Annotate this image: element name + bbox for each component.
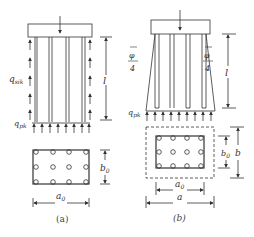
svg-text:4: 4 xyxy=(204,64,210,73)
pile-plan-b xyxy=(156,136,204,168)
label-a0-a: a0 xyxy=(56,191,65,202)
label-b-b: b xyxy=(235,148,241,158)
svg-text:4: 4 xyxy=(129,64,135,73)
end-bearing-arrows-a xyxy=(34,124,89,133)
label-b0-a: b0 xyxy=(100,163,110,174)
end-bearing-arrows-b xyxy=(147,112,211,121)
label-a0-b: a0 xyxy=(175,179,184,190)
caption-b: (b) xyxy=(173,213,186,223)
svg-text:φ: φ xyxy=(129,51,135,60)
pile-circles-b xyxy=(157,136,204,169)
label-l-a: l xyxy=(103,75,106,86)
pile-group-diagram: qsik qpk l b0 a0 (a) xyxy=(0,0,254,237)
side-friction-arrows-a xyxy=(30,40,90,120)
panel-a xyxy=(28,16,112,207)
label-l-b: l xyxy=(225,67,228,78)
svg-text:φ: φ xyxy=(204,51,210,60)
label-a-b: a xyxy=(177,192,182,202)
pile-cap-b xyxy=(151,20,210,34)
pile-circles-a xyxy=(34,150,89,185)
label-qpk-b: qpk xyxy=(128,108,141,119)
label-qsik: qsik xyxy=(9,74,24,85)
pile-plan-a xyxy=(33,150,89,184)
label-phi-over-4-right: φ 4 xyxy=(203,47,213,73)
caption-a: (a) xyxy=(56,214,68,224)
panel-b xyxy=(146,10,244,208)
label-phi-over-4-left: φ 4 xyxy=(128,47,138,73)
label-b0-b: b0 xyxy=(221,149,230,159)
label-qpk-a: qpk xyxy=(14,119,27,130)
